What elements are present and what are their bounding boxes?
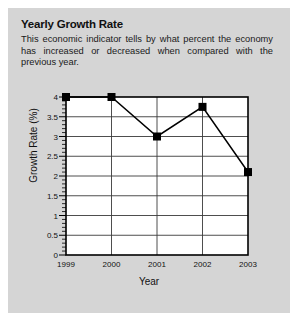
x-axis-tick-label: 1999 [57,260,75,269]
chart-panel: Yearly Growth Rate This economic indicat… [8,8,290,313]
y-axis-tick-label: 0 [34,251,58,260]
y-axis-title: Growth Rate (%) [28,91,39,201]
data-point-marker [153,133,161,141]
x-axis-tick-label: 2000 [103,260,121,269]
x-axis-tick-label: 2003 [239,260,257,269]
data-point-marker [108,93,116,101]
y-axis-tick-label: 1 [34,211,58,220]
y-axis-tick-label: 3 [34,132,58,141]
data-point-marker [62,93,70,101]
x-axis-tick-label: 2002 [194,260,212,269]
data-point-marker [199,103,207,111]
y-axis-tick-label: 4 [34,93,58,102]
y-axis-tick-label: 1.5 [34,191,58,200]
y-axis-tick-label: 3.5 [34,112,58,121]
y-axis-tick-label: 2.5 [34,152,58,161]
y-axis-tick-label: 2 [34,172,58,181]
x-axis-title: Year [8,276,290,287]
x-axis-tick-label: 2001 [148,260,166,269]
data-point-marker [244,168,252,176]
chart-figure: Growth Rate (%) Year 1999200020012002200… [8,8,290,313]
y-axis-tick-label: 0.5 [34,231,58,240]
